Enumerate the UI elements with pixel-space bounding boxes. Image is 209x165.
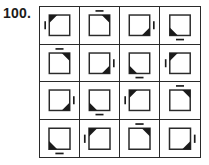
cell-r1c1[interactable] bbox=[40, 7, 80, 45]
cell-figure bbox=[120, 82, 159, 119]
cell-r1c3[interactable] bbox=[120, 7, 160, 45]
cell-figure bbox=[40, 120, 79, 158]
cell-r3c4[interactable] bbox=[160, 82, 200, 120]
cell-r2c1[interactable] bbox=[40, 45, 80, 83]
cell-figure bbox=[120, 120, 159, 158]
cell-figure bbox=[40, 7, 79, 44]
cell-figure bbox=[40, 82, 79, 119]
cell-r4c4[interactable] bbox=[160, 120, 200, 158]
cell-figure bbox=[80, 45, 119, 82]
tick-mark-right bbox=[113, 59, 115, 67]
cell-r1c2[interactable] bbox=[80, 7, 120, 45]
tick-mark-top bbox=[55, 48, 63, 50]
cell-figure bbox=[80, 7, 119, 44]
cell-figure bbox=[80, 82, 119, 119]
tick-mark-left bbox=[124, 96, 126, 104]
tick-mark-bottom bbox=[95, 114, 103, 116]
tick-mark-left bbox=[44, 21, 46, 29]
tick-mark-bottom bbox=[55, 152, 63, 154]
cell-r2c2[interactable] bbox=[80, 45, 120, 83]
cell-figure bbox=[160, 82, 200, 119]
cell-figure bbox=[120, 45, 159, 82]
cell-figure bbox=[160, 120, 200, 158]
puzzle-figure: 100. bbox=[0, 0, 209, 165]
cell-r4c2[interactable] bbox=[80, 120, 120, 158]
cell-figure bbox=[80, 120, 119, 158]
cell-figure bbox=[40, 45, 79, 82]
cell-figure bbox=[120, 7, 159, 44]
tick-mark-left bbox=[165, 59, 167, 67]
tick-mark-bottom bbox=[135, 76, 143, 78]
cell-r3c3[interactable] bbox=[120, 82, 160, 120]
question-number-label: 100. bbox=[3, 6, 31, 20]
tick-mark-right bbox=[194, 134, 196, 142]
cell-r2c4[interactable] bbox=[160, 45, 200, 83]
cell-r4c3[interactable] bbox=[120, 120, 160, 158]
cell-figure bbox=[160, 7, 200, 44]
cell-r3c2[interactable] bbox=[80, 82, 120, 120]
cell-r1c4[interactable] bbox=[160, 7, 200, 45]
tick-mark-top bbox=[135, 123, 143, 125]
tick-mark-top bbox=[176, 85, 184, 87]
tick-mark-left bbox=[84, 134, 86, 142]
tick-mark-right bbox=[153, 21, 155, 29]
cell-r4c1[interactable] bbox=[40, 120, 80, 158]
tick-mark-bottom bbox=[176, 39, 184, 41]
cell-r2c3[interactable] bbox=[120, 45, 160, 83]
cell-figure bbox=[160, 45, 200, 82]
tick-mark-right bbox=[73, 96, 75, 104]
cell-r3c1[interactable] bbox=[40, 82, 80, 120]
tick-mark-top bbox=[95, 10, 103, 12]
matrix-grid bbox=[39, 6, 201, 158]
